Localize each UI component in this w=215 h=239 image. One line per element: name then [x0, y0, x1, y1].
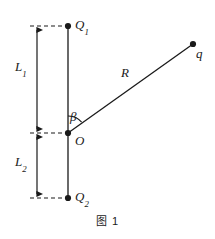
label-test-charge-q: q — [196, 47, 203, 60]
distance-line-R — [68, 44, 193, 133]
label-distance-r: R — [121, 66, 129, 79]
figure-drawing — [0, 0, 215, 239]
charge-dot-O — [65, 130, 71, 136]
label-charge-q2: Q2 — [75, 190, 89, 206]
charge-dot-Q2 — [65, 195, 71, 201]
charge-dot-Q1 — [65, 23, 71, 29]
label-angle-beta: β — [70, 110, 76, 123]
label-origin-o: O — [75, 134, 84, 147]
label-length-l2: L2 — [15, 155, 27, 171]
label-charge-q1: Q1 — [75, 18, 89, 34]
figure-caption: 图 1 — [0, 212, 215, 228]
label-length-l1: L1 — [15, 60, 27, 76]
physics-figure: Q1 Q2 O q R β L1 L2 图 1 — [0, 0, 215, 239]
